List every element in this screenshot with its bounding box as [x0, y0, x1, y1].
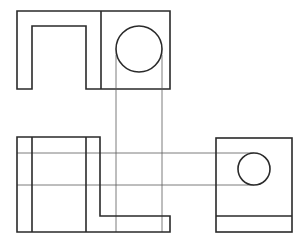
side-view-hole-circle [238, 153, 270, 185]
u-channel-outline [17, 11, 170, 89]
top-view [17, 137, 170, 232]
front-view-hole-circle [116, 26, 162, 72]
orthographic-drawing [0, 0, 305, 245]
front-view [17, 11, 170, 89]
projection-lines [17, 55, 254, 232]
top-view-outline [17, 137, 170, 232]
